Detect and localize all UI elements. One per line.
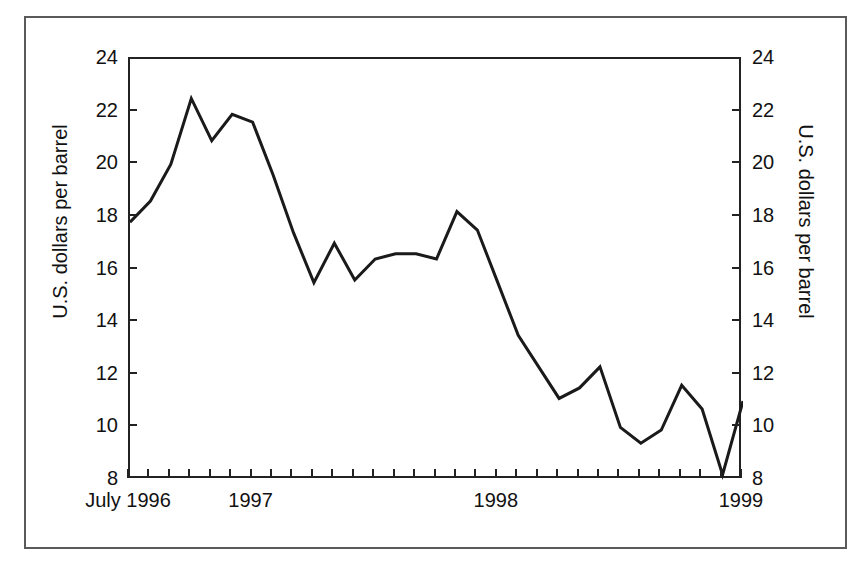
x-axis-tickmark (290, 469, 292, 478)
x-axis-tickmark (577, 469, 579, 478)
y-axis-right-tick-labels: 81012141618202224 (752, 57, 792, 478)
x-axis-tickmark (658, 469, 660, 478)
x-axis-tickmark (597, 469, 599, 478)
y-axis-right-tick-8: 8 (752, 468, 763, 488)
x-axis-tickmark (556, 469, 558, 478)
x-axis-tickmark (495, 469, 497, 478)
y-axis-right-tick-22: 22 (752, 100, 774, 120)
y-axis-left-tick-10: 10 (96, 415, 118, 435)
y-axis-left-tick-14: 14 (96, 310, 118, 330)
y-axis-right-tick-12: 12 (752, 363, 774, 383)
plot-area (128, 57, 741, 478)
y-axis-left-tick-22: 22 (96, 100, 118, 120)
y-axis-left-tickmark (128, 424, 137, 426)
y-axis-right-tickmark (732, 109, 741, 111)
y-axis-right-tick-18: 18 (752, 205, 774, 225)
y-axis-right-tickmark (732, 161, 741, 163)
y-axis-right-title: U.S. dollars per barrel (794, 72, 817, 372)
y-axis-right-tickmark (732, 214, 741, 216)
line-chart-svg (130, 59, 743, 480)
x-axis-tickmark (393, 469, 395, 478)
x-axis-tickmark (250, 469, 252, 478)
y-axis-right-tickmark (732, 267, 741, 269)
figure-container: 81012141618202224 81012141618202224 U.S.… (0, 0, 867, 571)
x-axis-tickmark (188, 469, 190, 478)
x-axis-tickmark (638, 469, 640, 478)
x-axis-tickmark (515, 469, 517, 478)
y-axis-left-tick-8: 8 (107, 468, 118, 488)
series-line-crude-oil (130, 98, 743, 474)
x-axis-tickmark (372, 469, 374, 478)
x-axis-tickmark (740, 469, 742, 478)
x-axis-tickmark (454, 469, 456, 478)
y-axis-right-tick-16: 16 (752, 258, 774, 278)
x-axis-tickmark (536, 469, 538, 478)
x-axis-tickmark (617, 469, 619, 478)
x-axis-tickmark (679, 469, 681, 478)
y-axis-left-tick-20: 20 (96, 152, 118, 172)
y-axis-right-tick-14: 14 (752, 310, 774, 330)
y-axis-left-tickmark (128, 372, 137, 374)
y-axis-left-tickmark (128, 214, 137, 216)
x-axis-tickmark (352, 469, 354, 478)
y-axis-right-tick-20: 20 (752, 152, 774, 172)
x-axis-label-1997: 1997 (131, 489, 371, 511)
x-axis-label-1998: 1998 (376, 489, 616, 511)
x-axis-tickmark (720, 469, 722, 478)
y-axis-left-title: U.S. dollars per barrel (49, 72, 72, 372)
y-axis-left-tick-labels: 81012141618202224 (78, 57, 118, 478)
y-axis-left-tick-18: 18 (96, 205, 118, 225)
x-axis-tickmark (229, 469, 231, 478)
y-axis-left-tick-24: 24 (96, 47, 118, 67)
x-axis-tickmark (331, 469, 333, 478)
x-axis-tickmark (270, 469, 272, 478)
y-axis-right-tickmark (732, 372, 741, 374)
x-axis-tickmark (147, 469, 149, 478)
y-axis-left-tick-16: 16 (96, 258, 118, 278)
x-axis-tickmark (699, 469, 701, 478)
y-axis-right-tick-24: 24 (752, 47, 774, 67)
y-axis-left-tickmark (128, 267, 137, 269)
x-axis-label-1999: 1999 (621, 489, 861, 511)
y-axis-right-tickmark (732, 319, 741, 321)
y-axis-right-tick-10: 10 (752, 415, 774, 435)
x-axis-tickmark (209, 469, 211, 478)
y-axis-right-tickmark (732, 424, 741, 426)
x-axis-tickmark (474, 469, 476, 478)
x-axis-tickmark (168, 469, 170, 478)
y-axis-left-tick-12: 12 (96, 363, 118, 383)
y-axis-left-tickmark (128, 109, 137, 111)
x-axis-tickmark (311, 469, 313, 478)
x-axis-tickmark (413, 469, 415, 478)
y-axis-left-tickmark (128, 161, 137, 163)
x-axis-tickmark (127, 469, 129, 478)
y-axis-left-tickmark (128, 319, 137, 321)
x-axis-tickmark (434, 469, 436, 478)
